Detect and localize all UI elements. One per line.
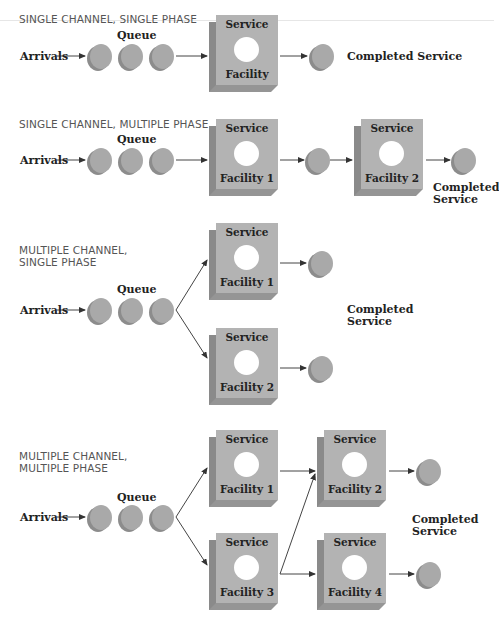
- service-facility-1: Service Facility 1: [216, 430, 278, 500]
- service-label: Service: [361, 122, 423, 134]
- completed-customer: [454, 148, 476, 173]
- server-icon: [234, 452, 259, 477]
- service-facility-2: Service Facility 2: [216, 328, 278, 398]
- completed-label: Completed Service: [347, 50, 462, 63]
- service-label: Service: [216, 18, 278, 30]
- queue-customer: [90, 505, 112, 530]
- facility-label: Facility 3: [216, 586, 278, 598]
- queue-customer: [152, 44, 174, 69]
- service-facility-1: Service Facility 1: [216, 223, 278, 293]
- service-label: Service: [216, 433, 278, 445]
- server-icon: [379, 141, 404, 166]
- section-title-line2: MULTIPLE PHASE: [19, 462, 108, 475]
- server-icon: [234, 350, 259, 375]
- queue-customer: [121, 298, 143, 323]
- queue-customer: [152, 298, 174, 323]
- queue-label: Queue: [117, 491, 157, 504]
- arrivals-label: Arrivals: [20, 50, 68, 63]
- service-facility-1: Service Facility 1: [216, 119, 278, 189]
- queue-customer: [90, 298, 112, 323]
- queue-label: Queue: [117, 133, 157, 146]
- facility-label: Facility 2: [324, 483, 386, 495]
- service-label: Service: [216, 226, 278, 238]
- completed-customer: [419, 562, 441, 587]
- service-facility-2: Service Facility 2: [324, 430, 386, 500]
- service-facility-3: Service Facility 3: [216, 533, 278, 603]
- service-facility: Service Facility: [216, 15, 278, 85]
- completed-customer: [312, 44, 334, 69]
- queue-customer: [121, 148, 143, 173]
- completed-label-line2: Service: [412, 525, 457, 538]
- queue-customer: [121, 505, 143, 530]
- facility-label: Facility 1: [216, 172, 278, 184]
- section-title-line2: SINGLE PHASE: [19, 256, 96, 269]
- service-label: Service: [216, 331, 278, 343]
- service-facility-2: Service Facility 2: [361, 119, 423, 189]
- completed-customer: [419, 459, 441, 484]
- server-icon: [342, 555, 367, 580]
- queue-customer: [90, 148, 112, 173]
- arrivals-label: Arrivals: [20, 154, 68, 167]
- completed-customer: [311, 356, 333, 381]
- queue-customer: [90, 44, 112, 69]
- completed-customer: [311, 251, 333, 276]
- facility-label: Facility 1: [216, 483, 278, 495]
- service-label: Service: [216, 536, 278, 548]
- facility-label: Facility: [216, 68, 278, 80]
- server-icon: [234, 141, 259, 166]
- facility-label: Facility 2: [361, 172, 423, 184]
- service-label: Service: [216, 122, 278, 134]
- server-icon: [342, 452, 367, 477]
- arrivals-label: Arrivals: [20, 304, 68, 317]
- queue-customer: [152, 505, 174, 530]
- section-title: SINGLE CHANNEL, MULTIPLE PHASE: [19, 118, 208, 131]
- completed-label-line2: Service: [433, 193, 478, 206]
- queue-customer: [152, 148, 174, 173]
- intermediate-customer: [308, 148, 330, 173]
- service-label: Service: [324, 433, 386, 445]
- service-facility-4: Service Facility 4: [324, 533, 386, 603]
- queue-customer: [121, 44, 143, 69]
- facility-label: Facility 1: [216, 276, 278, 288]
- service-label: Service: [324, 536, 386, 548]
- queue-label: Queue: [117, 29, 157, 42]
- section-title: SINGLE CHANNEL, SINGLE PHASE: [19, 13, 197, 26]
- server-icon: [234, 555, 259, 580]
- server-icon: [234, 37, 259, 62]
- arrivals-label: Arrivals: [20, 511, 68, 524]
- server-icon: [234, 245, 259, 270]
- completed-label-line2: Service: [347, 315, 392, 328]
- queue-label: Queue: [117, 283, 157, 296]
- facility-label: Facility 4: [324, 586, 386, 598]
- facility-label: Facility 2: [216, 381, 278, 393]
